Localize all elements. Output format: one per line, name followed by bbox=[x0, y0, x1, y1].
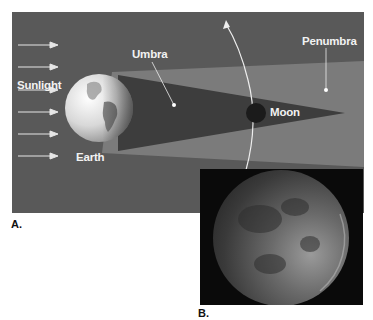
eclipse-photo-panel bbox=[200, 169, 363, 305]
moon-label: Moon bbox=[270, 106, 300, 118]
earth-label: Earth bbox=[76, 151, 104, 163]
eclipsed-moon-disc bbox=[213, 170, 349, 305]
earth-globe-icon bbox=[65, 74, 133, 142]
eclipsed-moon-photo bbox=[200, 169, 363, 305]
umbra-label: Umbra bbox=[132, 48, 167, 60]
figure-b-label: B. bbox=[198, 307, 209, 319]
sunlight-label: Sunlight bbox=[17, 79, 61, 91]
moon-icon bbox=[246, 103, 266, 123]
umbra-pointer-dot bbox=[172, 103, 176, 107]
penumbra-label: Penumbra bbox=[302, 35, 357, 47]
penumbra-pointer-dot bbox=[324, 88, 328, 92]
figure-a-label: A. bbox=[11, 218, 22, 230]
